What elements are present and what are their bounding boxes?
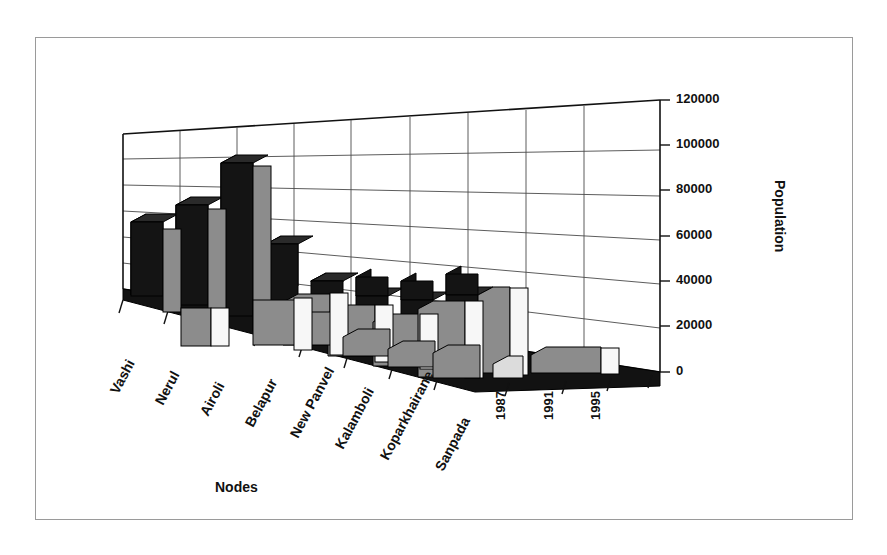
y-tick-labels: 120000 100000 80000 60000 40000 20000 0 xyxy=(676,91,719,378)
series-label-1995: 1995 xyxy=(588,391,603,420)
gridline-100000 xyxy=(123,150,660,159)
bar-low-2[interactable] xyxy=(388,341,435,367)
screenshot-root: 120000 100000 80000 60000 40000 20000 0 … xyxy=(0,0,887,555)
y-axis-ticks xyxy=(660,100,670,372)
population-3d-column-chart: 120000 100000 80000 60000 40000 20000 0 … xyxy=(0,0,887,555)
y-tick-100000: 100000 xyxy=(676,136,719,151)
bar-1995-vashi[interactable] xyxy=(211,308,229,346)
category-label-kalamboli: Kalamboli xyxy=(332,385,378,452)
bar-1995-nerul[interactable] xyxy=(294,298,312,350)
bar-1991-nerul[interactable] xyxy=(208,209,226,321)
bar-1987-koparkhairane[interactable] xyxy=(401,273,448,300)
gridline-120000 xyxy=(123,100,660,134)
y-tick-120000: 120000 xyxy=(676,91,719,106)
y-tick-20000: 20000 xyxy=(676,317,712,332)
category-label-koparkhairane: Koparkhairane xyxy=(377,368,437,462)
category-label-airoli: Airoli xyxy=(197,379,228,418)
bar-1991-depth-vashi[interactable] xyxy=(181,308,211,346)
bar-1991-tail[interactable] xyxy=(531,347,601,373)
y-tick-80000: 80000 xyxy=(676,181,712,196)
y-axis-title: Population xyxy=(772,180,788,252)
gridline-80000 xyxy=(123,185,660,196)
x-axis-title: Nodes xyxy=(215,479,258,495)
category-label-nerul: Nerul xyxy=(152,368,183,407)
series-labels: 1987 1991 1995 xyxy=(493,391,603,420)
chart-canvas: 120000 100000 80000 60000 40000 20000 0 … xyxy=(0,0,887,555)
category-label-belapur: Belapur xyxy=(242,375,281,429)
bar-1991-vashi[interactable] xyxy=(163,229,181,312)
series-label-1991: 1991 xyxy=(541,391,556,420)
y-axis-title-group: Population xyxy=(772,180,788,252)
y-tick-40000: 40000 xyxy=(676,272,712,287)
bar-1987-kalamboli[interactable] xyxy=(356,269,403,296)
category-label-new-panvel: New Panvel xyxy=(287,364,338,440)
bar-low-1[interactable] xyxy=(343,329,390,356)
series-label-1987: 1987 xyxy=(493,391,508,420)
category-label-sanpada: Sanpada xyxy=(432,414,474,473)
bar-1987-vashi-face[interactable] xyxy=(131,222,163,296)
bar-1995-sanpada[interactable] xyxy=(601,348,619,374)
y-tick-0: 0 xyxy=(676,363,683,378)
category-label-vashi: Vashi xyxy=(107,357,138,397)
bar-1991-depth-airoli[interactable] xyxy=(253,300,298,345)
bar-low-3[interactable] xyxy=(433,345,480,378)
y-tick-60000: 60000 xyxy=(676,227,712,242)
